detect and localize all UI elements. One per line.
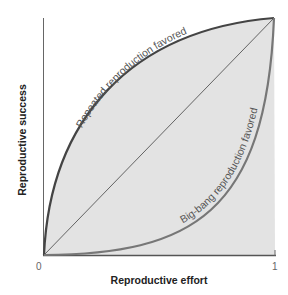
x-tick-1: 1 [272,261,278,272]
x-tick-0: 0 [36,261,42,272]
y-axis-title: Reproductive success [16,84,28,196]
x-axis-title: Reproductive effort [111,274,208,286]
reproductive-effort-chart: Repeated reproduction favored Big-bang r… [0,0,288,295]
